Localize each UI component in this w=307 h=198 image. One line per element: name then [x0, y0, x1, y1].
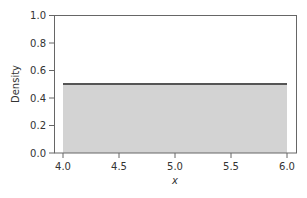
density-chart: 0.0 0.2 0.4 0.6 0.8 1.0 4.0 4.5 5.0 5.5 …: [0, 0, 307, 198]
y-tick-label: 0.4: [30, 93, 46, 104]
x-tick-label: 5.0: [167, 161, 183, 172]
y-tick-label: 0.0: [30, 148, 46, 159]
y-tick-label: 0.6: [30, 65, 46, 76]
y-tick-labels: 0.0 0.2 0.4 0.6 0.8 1.0: [30, 10, 46, 159]
x-axis: [63, 153, 287, 158]
x-tick-labels: 4.0 4.5 5.0 5.5 6.0: [55, 161, 295, 172]
y-tick-label: 0.8: [30, 38, 46, 49]
x-tick-label: 4.0: [55, 161, 71, 172]
y-axis: [49, 16, 55, 154]
y-axis-label: Density: [10, 65, 21, 103]
x-tick-label: 4.5: [111, 161, 127, 172]
x-tick-label: 6.0: [279, 161, 295, 172]
density-fill-area: [63, 84, 287, 153]
y-tick-label: 1.0: [30, 10, 46, 21]
y-tick-label: 0.2: [30, 120, 46, 131]
x-tick-label: 5.5: [223, 161, 239, 172]
x-axis-label: x: [171, 175, 178, 186]
